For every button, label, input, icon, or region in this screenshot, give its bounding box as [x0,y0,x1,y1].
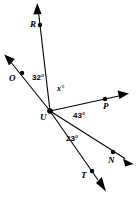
point-label-N: N [108,156,115,165]
vertex-U-dot [47,108,53,114]
point-O-dot [20,71,24,75]
point-label-O: O [9,74,16,83]
angle-label-43: 43° [73,112,85,120]
ray-UO-arrowhead [4,55,15,66]
vertex-label-U: U [40,113,47,122]
ray-UO-line [10,61,50,111]
angle-label-32: 32° [32,74,44,82]
point-label-R: R [30,20,36,29]
point-N-dot [111,150,115,154]
point-T-dot [90,169,94,173]
point-R-dot [38,23,42,27]
ray-UR-arrowhead [33,3,41,15]
point-label-T: T [81,171,87,180]
point-label-P: P [103,102,109,111]
rays-canvas [0,0,140,197]
ray-UN-arrowhead [123,158,134,166]
angle-label-x: x° [57,85,64,93]
angle-label-23: 23° [66,135,78,143]
ray-UP-arrowhead [118,91,129,99]
ray-UP-line [50,96,120,111]
geometry-figure: R O P N T U 32° x° 43° 23° [0,0,140,197]
